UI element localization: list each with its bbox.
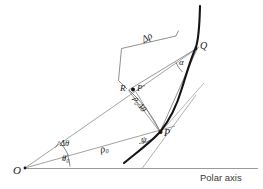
polar-curve (124, 6, 200, 163)
polar-geometry-figure (0, 0, 263, 189)
label-origin-o: O (13, 165, 21, 176)
ray-oq (25, 47, 199, 168)
point-marker-o (24, 167, 27, 170)
label-polar-axis: Polar axis (200, 173, 242, 183)
label-delta-theta: Δθ (60, 139, 69, 148)
label-point-q: Q (200, 41, 207, 51)
point-marker-r (131, 88, 135, 92)
label-theta-zero: θ₀ (62, 154, 69, 163)
point-marker-p (159, 130, 163, 134)
segment-rp (129, 91, 161, 133)
label-point-p-prime: P′ (137, 84, 144, 93)
point-marker-q (195, 47, 198, 50)
label-point-p: P (164, 128, 170, 138)
label-point-r: R (120, 84, 126, 93)
label-alpha: α (179, 58, 184, 67)
label-psi: ψ (141, 135, 147, 144)
arc-rp-rho0-delta-theta (129, 90, 161, 132)
